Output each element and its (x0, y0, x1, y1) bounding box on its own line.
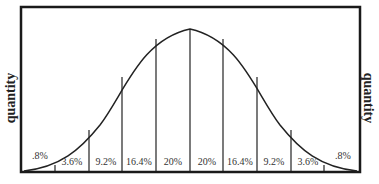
band-label-7: 16.4% (223, 156, 257, 167)
band-label-9: 3.6% (291, 156, 325, 167)
band-label-4: 16.4% (122, 156, 156, 167)
band-dividers (55, 29, 324, 171)
band-label-5: 20% (156, 156, 190, 167)
band-label-10: .8% (326, 150, 360, 161)
y-axis-label-right: quantity (360, 73, 376, 124)
band-label-2: 3.6% (55, 156, 89, 167)
band-label-1: .8% (23, 150, 57, 161)
band-label-3: 9.2% (89, 156, 123, 167)
band-label-6: 20% (190, 156, 224, 167)
y-axis-label-left: quantity (3, 73, 19, 124)
band-label-8: 9.2% (257, 156, 291, 167)
